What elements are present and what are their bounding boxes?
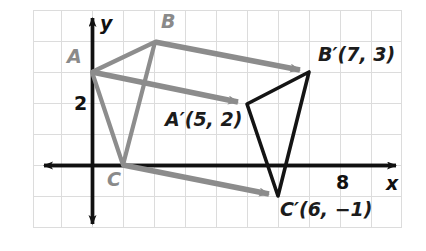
- vertex-label-c-prime: C′(6, −1): [280, 200, 373, 219]
- vertex-label-a-prime: A′(5, 2): [165, 110, 242, 129]
- x-axis-label: x: [386, 174, 398, 193]
- vertex-label-b: B: [161, 12, 175, 31]
- coordinate-plane-figure: A B C A′(5, 2) B′(7, 3) C′(6, −1) 2 8 y …: [0, 0, 426, 251]
- y-axis-label: y: [100, 14, 112, 33]
- vertex-label-a: A: [67, 47, 82, 66]
- vertex-label-c: C: [107, 170, 121, 189]
- vertex-label-b-prime: B′(7, 3): [318, 45, 395, 64]
- y-axis-tick-label-2: 2: [74, 94, 87, 113]
- x-axis-tick-label-8: 8: [336, 173, 349, 192]
